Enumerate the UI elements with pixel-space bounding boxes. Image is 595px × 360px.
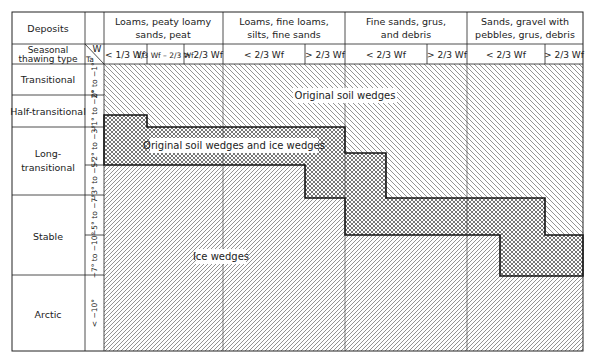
deposit-group-1-line2: sands, peat (135, 29, 191, 40)
deposit-group-4-line1: Sands, gravel with (481, 16, 569, 27)
axis-w-label: W (93, 44, 102, 54)
moisture-column-headers: < 1/3 Wf 1/3 Wf – 2/3 Wf > 2/3 Wf < 2/3 … (105, 50, 585, 60)
deposit-group-1-line1: Loams, peaty loamy (115, 16, 212, 27)
deposit-group-2-line1: Loams, fine loams, (239, 16, 328, 27)
deposit-group-2-line2: silts, fine sands (247, 29, 321, 40)
row-arctic: Arctic (34, 309, 61, 320)
moisture-col-8: < 2/3 Wf (486, 50, 527, 60)
deposit-group-4-line2: pebbles, grus, debris (475, 29, 575, 40)
label-ice-wedges: Ice wedges (193, 251, 249, 262)
label-original-soil-wedges: Original soil wedges (295, 90, 396, 101)
deposits-label: Deposits (27, 23, 68, 34)
row-long-transitional-1: Long- (35, 148, 61, 159)
moisture-col-9: > 2/3 Wf (544, 50, 585, 60)
soil-wedge-diagram: Deposits Seasonal thawing type W Ta Loam… (0, 0, 595, 360)
moisture-col-3: > 2/3 Wf (183, 50, 224, 60)
row-transitional: Transitional (20, 74, 75, 85)
label-mixed-wedges: Original soil wedges and ice wedges (143, 140, 325, 151)
moisture-col-4: < 2/3 Wf (244, 50, 285, 60)
temp-range-7: < −10° (90, 299, 99, 327)
temp-range-5: −5° to −7° (90, 194, 99, 236)
deposit-group-3-line1: Fine sands, grus, (366, 16, 446, 27)
deposit-group-3-line2: and debris (381, 29, 431, 40)
row-stable: Stable (33, 231, 63, 242)
temperature-range-labels: 0° to −1° −1° to −2° −2° to −3° −3° to −… (90, 62, 99, 327)
moisture-col-5: > 2/3 Wf (305, 50, 346, 60)
thawing-label-2: thawing type (19, 54, 78, 64)
thawing-type-labels: Transitional Half-transitional Long- tra… (10, 74, 86, 320)
moisture-col-6: < 2/3 Wf (366, 50, 407, 60)
moisture-col-7: > 2/3 Wf (427, 50, 468, 60)
row-long-transitional-2: transitional (21, 162, 75, 173)
temp-range-6: −7° to −10° (90, 231, 99, 278)
row-half-transitional: Half-transitional (10, 106, 86, 117)
